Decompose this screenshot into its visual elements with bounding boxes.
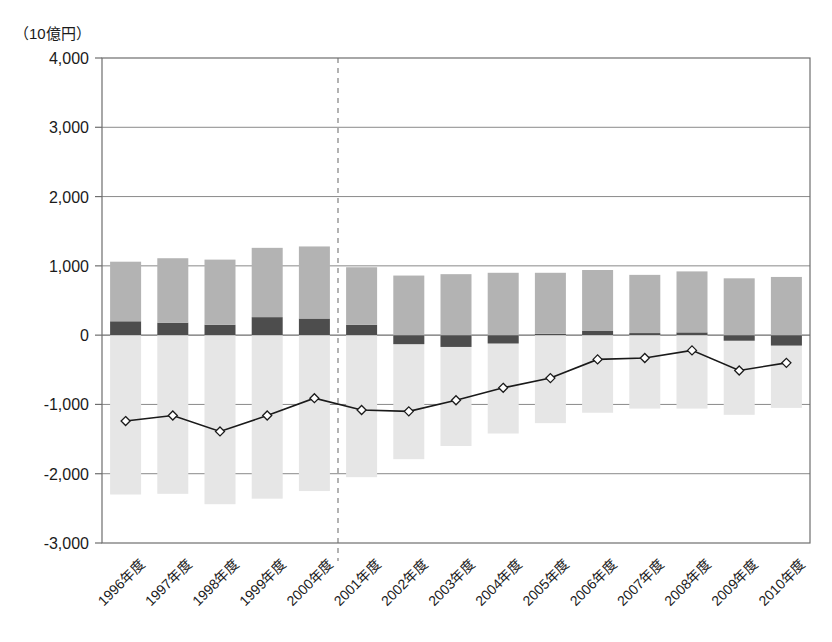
bar-segment-dark[interactable] (205, 325, 236, 335)
x-tick-label: 2008年度 (661, 556, 714, 609)
bar-group[interactable] (110, 262, 141, 495)
bar-segment-pale-negative[interactable] (771, 335, 802, 408)
bar-segment-dark[interactable] (629, 333, 660, 335)
bar-series-group (110, 246, 802, 504)
y-tick-label: -3,000 (44, 535, 89, 552)
x-tick-label: 2006年度 (567, 556, 620, 609)
bar-segment-light[interactable] (252, 248, 283, 317)
bar-group[interactable] (629, 275, 660, 409)
x-tick-label: 2001年度 (331, 556, 384, 609)
y-tick-label: 3,000 (49, 119, 89, 136)
bar-segment-dark[interactable] (771, 335, 802, 345)
bar-group[interactable] (393, 276, 424, 460)
bar-segment-pale-negative[interactable] (110, 335, 141, 494)
bar-segment-light[interactable] (535, 273, 566, 334)
chart-container: （10億円）4,0003,0002,0001,0000-1,000-2,000-… (0, 0, 832, 642)
y-tick-label: 0 (80, 327, 89, 344)
bar-segment-dark[interactable] (535, 334, 566, 335)
bar-group[interactable] (441, 274, 472, 446)
bar-segment-light[interactable] (299, 246, 330, 318)
bar-group[interactable] (771, 277, 802, 408)
bar-group[interactable] (677, 271, 708, 408)
bar-segment-dark[interactable] (252, 317, 283, 335)
x-axis-labels: 1996年度1997年度1998年度1999年度2000年度2001年度2002… (95, 556, 809, 609)
bar-segment-light[interactable] (110, 262, 141, 322)
x-tick-label: 2000年度 (283, 556, 336, 609)
bar-segment-light[interactable] (157, 258, 188, 322)
x-tick-label: 2005年度 (519, 556, 572, 609)
bar-segment-pale-negative[interactable] (582, 335, 613, 413)
bar-segment-dark[interactable] (488, 335, 519, 343)
bar-segment-dark[interactable] (393, 335, 424, 344)
bar-group[interactable] (535, 273, 566, 423)
bar-segment-light[interactable] (724, 278, 755, 335)
bar-segment-light[interactable] (346, 267, 377, 325)
bar-segment-light[interactable] (393, 276, 424, 336)
y-tick-label: -2,000 (44, 466, 89, 483)
x-tick-label: 2004年度 (472, 556, 525, 609)
bar-segment-dark[interactable] (110, 321, 141, 335)
bar-segment-light[interactable] (677, 271, 708, 332)
bar-segment-dark[interactable] (157, 323, 188, 335)
bar-group[interactable] (724, 278, 755, 414)
bar-segment-light[interactable] (771, 277, 802, 335)
y-tick-label: -1,000 (44, 396, 89, 413)
y-tick-label: 2,000 (49, 189, 89, 206)
bar-group[interactable] (582, 270, 613, 413)
bar-segment-light[interactable] (205, 260, 236, 325)
x-tick-label: 2010年度 (755, 556, 808, 609)
bar-group[interactable] (299, 246, 330, 491)
bar-group[interactable] (252, 248, 283, 499)
bar-segment-light[interactable] (441, 274, 472, 335)
bar-segment-pale-negative[interactable] (441, 335, 472, 446)
bar-segment-dark[interactable] (299, 319, 330, 336)
bar-segment-dark[interactable] (346, 325, 377, 335)
x-tick-label: 1996年度 (95, 556, 148, 609)
bar-segment-light[interactable] (629, 275, 660, 333)
bar-segment-pale-negative[interactable] (299, 335, 330, 491)
bar-segment-pale-negative[interactable] (205, 335, 236, 504)
x-tick-label: 1997年度 (142, 556, 195, 609)
bar-segment-dark[interactable] (441, 335, 472, 347)
bar-segment-pale-negative[interactable] (393, 335, 424, 459)
y-tick-label: 1,000 (49, 258, 89, 275)
bar-segment-light[interactable] (582, 270, 613, 331)
x-tick-label: 2003年度 (425, 556, 478, 609)
bar-group[interactable] (346, 267, 377, 477)
bar-segment-dark[interactable] (724, 335, 755, 341)
chart-svg: （10億円）4,0003,0002,0001,0000-1,000-2,000-… (0, 0, 832, 642)
x-tick-label: 2009年度 (708, 556, 761, 609)
bar-segment-dark[interactable] (677, 332, 708, 335)
y-axis-unit-label: （10億円） (14, 25, 91, 42)
bar-segment-pale-negative[interactable] (629, 335, 660, 408)
bar-group[interactable] (205, 260, 236, 505)
x-tick-label: 2002年度 (378, 556, 431, 609)
bar-segment-dark[interactable] (582, 331, 613, 335)
x-tick-label: 1999年度 (236, 556, 289, 609)
bar-group[interactable] (157, 258, 188, 494)
x-tick-label: 1998年度 (189, 556, 242, 609)
x-tick-label: 2007年度 (614, 556, 667, 609)
y-tick-label: 4,000 (49, 50, 89, 67)
bar-segment-light[interactable] (488, 273, 519, 335)
bar-group[interactable] (488, 273, 519, 434)
